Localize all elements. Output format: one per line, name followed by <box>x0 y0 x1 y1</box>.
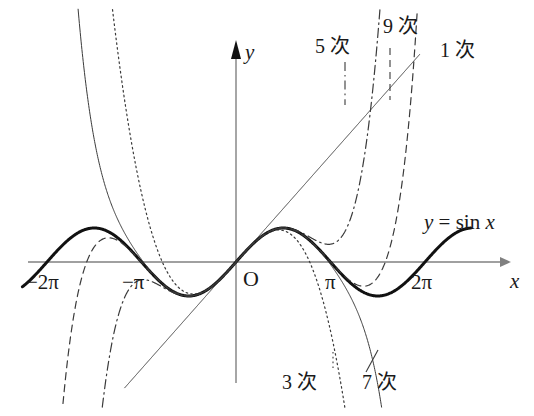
equation-variable: x <box>485 210 494 234</box>
figure-canvas: −2π −π π 2π O y x y = sin x 5 次 9 次 1 次 … <box>0 0 534 416</box>
curve-deg5 <box>102 10 380 407</box>
leader-deg7 <box>366 350 378 372</box>
curve-deg9 <box>63 13 417 404</box>
curve-deg3 <box>113 10 345 408</box>
origin-label: O <box>243 268 259 290</box>
series-label-deg1: 1 次 <box>440 40 475 60</box>
series-label-deg5: 5 次 <box>315 36 350 56</box>
equation-lhs: y <box>424 210 433 234</box>
equation-function-name: sin <box>456 210 481 234</box>
curve-deg7 <box>78 9 381 407</box>
y-axis-label: y <box>245 42 254 63</box>
plot-svg <box>0 0 534 416</box>
x-tick-label-pi: π <box>325 272 336 293</box>
curve-equation-label: y = sin x <box>424 212 495 233</box>
x-tick-label-minus-2pi: −2π <box>26 272 59 293</box>
x-tick-label-2pi: 2π <box>411 272 432 293</box>
y-axis-arrow <box>231 40 241 59</box>
x-tick-label-minus-pi: −π <box>122 272 144 293</box>
x-axis-label: x <box>510 271 519 292</box>
series-label-deg3: 3 次 <box>282 372 317 392</box>
series-label-deg7: 7 次 <box>362 372 397 392</box>
series-label-deg9: 9 次 <box>383 16 418 36</box>
equation-equals: = <box>439 210 451 234</box>
x-axis-arrow <box>500 257 511 267</box>
curve-deg1 <box>125 55 420 388</box>
